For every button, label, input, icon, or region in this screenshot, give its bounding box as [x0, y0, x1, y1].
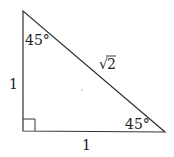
left-side-label: 1	[9, 76, 18, 92]
triangle-shape	[23, 11, 165, 132]
radical-value: 2	[107, 56, 116, 72]
triangle-diagram: 45° 45° 1 1 √ 2	[0, 0, 174, 157]
top-angle-label: 45°	[25, 32, 50, 48]
bottom-side-label: 1	[82, 137, 91, 153]
center-dot	[81, 89, 82, 90]
hypotenuse-label: √ 2	[99, 56, 116, 72]
right-angle-marker	[23, 119, 35, 131]
bottom-right-angle-label: 45°	[125, 116, 150, 132]
